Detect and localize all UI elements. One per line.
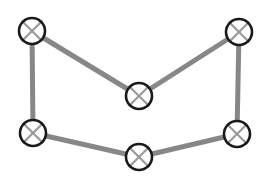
node-top-middle[interactable] xyxy=(126,83,152,109)
node-bottom-middle[interactable] xyxy=(126,144,152,170)
node-top-right[interactable] xyxy=(226,19,252,45)
graph-canvas xyxy=(0,0,273,185)
graph-diagram xyxy=(0,0,273,185)
nodes-layer xyxy=(19,18,252,170)
node-bottom-left[interactable] xyxy=(20,120,46,146)
edge-top-left-to-top-middle xyxy=(32,31,139,96)
node-top-left[interactable] xyxy=(19,18,45,44)
edge-bottom-left-to-bottom-middle xyxy=(33,133,139,157)
edge-top-middle-to-top-right xyxy=(139,32,239,96)
node-bottom-right[interactable] xyxy=(224,121,250,147)
edge-bottom-middle-to-bottom-right xyxy=(139,134,237,157)
edge-top-left-to-bottom-left xyxy=(32,31,33,133)
edge-top-right-to-bottom-right xyxy=(237,32,239,134)
